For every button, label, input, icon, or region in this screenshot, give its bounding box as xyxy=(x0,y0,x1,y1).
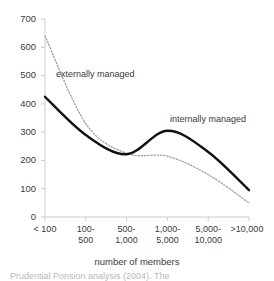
y-tick-label-400: 400 xyxy=(10,99,36,109)
x-tick-label-1000-5000: 1,000- 5,000 xyxy=(155,224,181,245)
x-tick-label-1000-5000-line2: 5,000 xyxy=(155,235,181,246)
x-tick-label-1000-5000-line1: 1,000- xyxy=(155,224,181,235)
x-tick-label-lt-100-line1: < 100 xyxy=(34,224,57,235)
x-tick-label-5000-10000-line1: 5,000- xyxy=(194,224,222,235)
x-tick-label-100-500: 100- 500 xyxy=(77,224,95,245)
x-tick-label-100-500-line2: 500 xyxy=(77,235,95,246)
y-tick-label-600: 600 xyxy=(10,42,36,52)
y-tick-label-500: 500 xyxy=(10,70,36,80)
series-annotation-internally-managed: internally managed xyxy=(170,114,246,124)
x-axis-title: number of members xyxy=(0,256,274,267)
x-tick-label-500-1000-line1: 500- xyxy=(115,224,138,235)
series-line-internally-managed xyxy=(45,97,249,190)
x-tick-label-5000-10000: 5,000- 10,000 xyxy=(194,224,222,245)
x-tick-label-100-500-line1: 100- xyxy=(77,224,95,235)
x-tick-label-5000-10000-line2: 10,000 xyxy=(194,235,222,246)
series-annotation-externally-managed: externally managed xyxy=(56,69,135,79)
x-tick-label-gt-10000-line1: >10,000 xyxy=(231,224,264,235)
y-tick-label-300: 300 xyxy=(10,127,36,137)
y-tick-label-700: 700 xyxy=(10,14,36,24)
y-tick-label-100: 100 xyxy=(10,184,36,194)
x-tick-label-gt-10000: >10,000 xyxy=(231,224,264,235)
x-tick-label-500-1000-line2: 1,000 xyxy=(115,235,138,246)
x-axis-ticks xyxy=(45,217,249,221)
y-tick-label-200: 200 xyxy=(10,155,36,165)
x-tick-label-lt-100: < 100 xyxy=(34,224,57,235)
y-axis-ticks xyxy=(41,19,45,217)
x-tick-label-500-1000: 500- 1,000 xyxy=(115,224,138,245)
figure-caption: Prudential Ponsion analysis (2004). The xyxy=(10,271,274,281)
y-tick-label-0: 0 xyxy=(10,212,36,222)
